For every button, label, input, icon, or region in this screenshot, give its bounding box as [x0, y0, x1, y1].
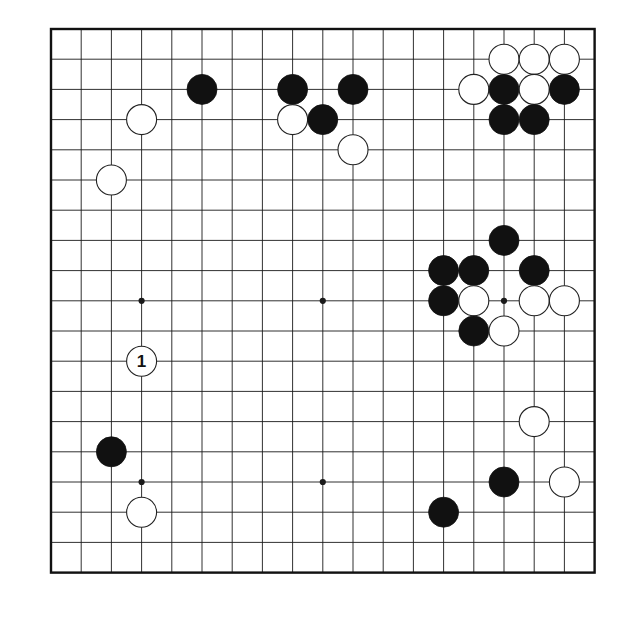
black-stone[interactable]	[489, 225, 519, 255]
white-stone[interactable]	[549, 467, 579, 497]
black-stone[interactable]	[429, 286, 459, 316]
white-stone[interactable]	[127, 105, 157, 135]
black-stone[interactable]	[308, 105, 338, 135]
black-stone[interactable]	[187, 74, 217, 104]
go-board-canvas[interactable]: 1	[0, 0, 619, 625]
star-point	[139, 298, 145, 304]
white-stone[interactable]	[519, 407, 549, 437]
star-point	[320, 298, 326, 304]
white-stone[interactable]	[459, 74, 489, 104]
black-stone[interactable]	[519, 105, 549, 135]
white-stone[interactable]	[278, 105, 308, 135]
black-stone[interactable]	[459, 316, 489, 346]
white-stone[interactable]	[489, 316, 519, 346]
black-stone[interactable]	[278, 74, 308, 104]
white-stone[interactable]	[519, 44, 549, 74]
white-stone[interactable]	[519, 74, 549, 104]
go-board[interactable]: 1	[0, 0, 619, 625]
black-stone[interactable]	[549, 74, 579, 104]
black-stone[interactable]	[489, 105, 519, 135]
black-stone[interactable]	[519, 256, 549, 286]
white-stone[interactable]	[459, 286, 489, 316]
white-stone[interactable]	[96, 165, 126, 195]
move-number-label: 1	[137, 352, 146, 371]
white-stone[interactable]	[519, 286, 549, 316]
black-stone[interactable]	[429, 256, 459, 286]
star-point	[501, 298, 507, 304]
black-stone[interactable]	[338, 74, 368, 104]
black-stone[interactable]	[489, 74, 519, 104]
go-diagram-page: 1	[0, 0, 619, 625]
star-point	[139, 479, 145, 485]
white-stone[interactable]	[549, 286, 579, 316]
white-stone[interactable]	[549, 44, 579, 74]
white-stone[interactable]	[489, 44, 519, 74]
move-number-layer: 1	[137, 352, 146, 371]
black-stone[interactable]	[429, 497, 459, 527]
black-stone[interactable]	[489, 467, 519, 497]
white-stone[interactable]	[338, 135, 368, 165]
star-point	[320, 479, 326, 485]
black-stone[interactable]	[96, 437, 126, 467]
white-stone[interactable]	[127, 497, 157, 527]
black-stone[interactable]	[459, 256, 489, 286]
